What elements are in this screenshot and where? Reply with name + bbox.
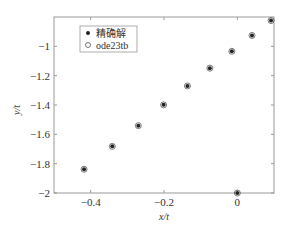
y-tick-label: −1.8 bbox=[30, 158, 50, 170]
legend-label-ode23tb: ode23tb bbox=[96, 40, 128, 51]
exact-solution-point bbox=[185, 84, 189, 88]
exact-solution-point bbox=[110, 144, 114, 148]
y-axis-label: y/t bbox=[11, 105, 22, 116]
x-tick-label: −0.2 bbox=[154, 196, 174, 208]
exact-solution-point bbox=[82, 167, 86, 171]
exact-solution-point bbox=[162, 103, 166, 107]
exact-solution-point bbox=[235, 191, 239, 195]
exact-solution-point bbox=[250, 33, 254, 37]
x-tick-label: −0.4 bbox=[81, 196, 101, 208]
y-tick-label: −1.6 bbox=[30, 128, 50, 140]
x-tick-label: 0 bbox=[235, 196, 241, 208]
exact-solution-point bbox=[136, 124, 140, 128]
y-tick-label: −1 bbox=[38, 40, 50, 52]
x-axis-label: x/t bbox=[158, 211, 169, 222]
exact-solution-point bbox=[208, 66, 212, 70]
y-tick-label: −1.4 bbox=[30, 99, 50, 111]
exact-solution-point bbox=[230, 49, 234, 53]
legend: 精确解ode23tb bbox=[80, 26, 137, 52]
legend-label-exact: 精确解 bbox=[96, 27, 126, 39]
y-tick-label: −1.2 bbox=[30, 70, 50, 82]
y-tick-label: −2 bbox=[38, 187, 50, 199]
exact-solution-point bbox=[269, 19, 273, 23]
scatter-chart: −0.4−0.20−1−1.2−1.4−1.6−1.8−2x/ty/t精确解od… bbox=[0, 0, 292, 229]
legend-filled-dot-icon bbox=[86, 31, 90, 35]
